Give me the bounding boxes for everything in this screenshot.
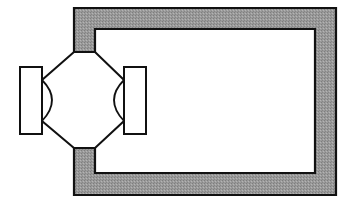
octagon-body <box>42 52 124 148</box>
left-plate <box>20 67 42 134</box>
diagram <box>0 0 351 204</box>
right-plate <box>124 67 146 134</box>
